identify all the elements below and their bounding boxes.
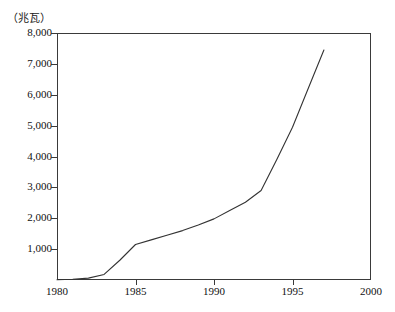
x-tick-label: 1995 bbox=[263, 286, 323, 297]
x-tick-label: 1980 bbox=[27, 286, 87, 297]
y-tick-label: 2,000 bbox=[6, 212, 52, 223]
x-tick-label: 1985 bbox=[106, 286, 166, 297]
y-tick-mark bbox=[51, 95, 57, 96]
y-tick-mark bbox=[51, 187, 57, 188]
y-tick-label: 5,000 bbox=[6, 120, 52, 131]
line-series-installed-capacity bbox=[57, 50, 324, 280]
x-tick-mark bbox=[214, 280, 215, 285]
x-tick-mark bbox=[136, 280, 137, 285]
y-tick-mark bbox=[51, 126, 57, 127]
y-tick-mark bbox=[51, 64, 57, 65]
y-tick-mark bbox=[51, 157, 57, 158]
y-tick-mark bbox=[51, 218, 57, 219]
y-tick-mark bbox=[51, 249, 57, 250]
y-tick-mark bbox=[51, 33, 57, 34]
chart-figure: （1980—1997年） （兆瓦） 1,0002,0003,0004,0005,… bbox=[0, 0, 395, 312]
x-tick-mark bbox=[293, 280, 294, 285]
y-tick-label: 4,000 bbox=[6, 151, 52, 162]
x-tick-label: 1990 bbox=[184, 286, 244, 297]
y-tick-label: 7,000 bbox=[6, 58, 52, 69]
x-tick-label: 2000 bbox=[341, 286, 395, 297]
y-tick-label: 3,000 bbox=[6, 181, 52, 192]
y-tick-label: 1,000 bbox=[6, 243, 52, 254]
data-series-layer bbox=[57, 33, 371, 280]
y-axis: 1,0002,0003,0004,0005,0006,0007,0008,000 bbox=[0, 0, 52, 312]
y-tick-label: 6,000 bbox=[6, 89, 52, 100]
y-tick-label: 8,000 bbox=[6, 27, 52, 38]
